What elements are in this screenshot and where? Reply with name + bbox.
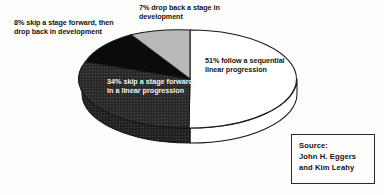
source-line-author-2: and Kim Leahy xyxy=(299,162,374,173)
source-line-title: Source: xyxy=(299,140,374,151)
label-slice-51: 51% follow a sequential linear progressi… xyxy=(205,56,317,75)
pie-chart-figure: 8% skip a stage forward, then drop back … xyxy=(0,0,384,195)
source-box: Source: John H. Eggers and Kim Leahy xyxy=(291,134,375,184)
source-line-author-1: John H. Eggers xyxy=(299,151,374,162)
label-slice-7: 7% drop back a stage in development xyxy=(139,3,249,22)
label-slice-8: 8% skip a stage forward, then drop back … xyxy=(14,18,154,37)
label-slice-34: 34% skip a stage forward, in a linear pr… xyxy=(107,77,215,96)
